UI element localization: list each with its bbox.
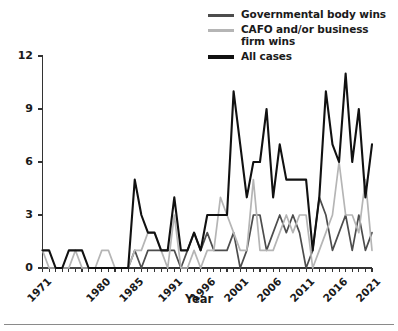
series-line-all-cases	[43, 74, 373, 268]
legend-line-swatch-all-cases	[208, 55, 234, 59]
y-axis-tick-label: 6	[5, 155, 33, 168]
legend-item-cafo-business-firm-wins[interactable]: CAFO and/or business firm wins	[208, 23, 394, 48]
y-axis-tick-label: 12	[5, 49, 33, 62]
legend-item-all-cases[interactable]: All cases	[208, 50, 394, 63]
x-axis-title: Year	[0, 292, 398, 306]
figure-bottom-rule	[4, 324, 394, 325]
legend-label-governmental: Governmental body wins	[241, 8, 386, 21]
legend-line-swatch-cafo	[208, 29, 234, 32]
y-axis-tick-label: 9	[5, 102, 33, 115]
chart-series-lines	[43, 74, 373, 268]
y-axis-tick-label: 0	[5, 261, 33, 274]
legend-item-governmental-body-wins[interactable]: Governmental body wins	[208, 8, 394, 21]
chart-legend: Governmental body wins CAFO and/or busin…	[208, 8, 394, 64]
series-line-governmental-body-wins	[43, 197, 373, 268]
legend-line-swatch-governmental	[208, 14, 234, 17]
chart-figure: Governmental body wins CAFO and/or busin…	[0, 0, 398, 331]
legend-label-all-cases: All cases	[241, 50, 292, 63]
y-axis-tick-label: 3	[5, 208, 33, 221]
legend-label-cafo: CAFO and/or business firm wins	[241, 23, 394, 48]
